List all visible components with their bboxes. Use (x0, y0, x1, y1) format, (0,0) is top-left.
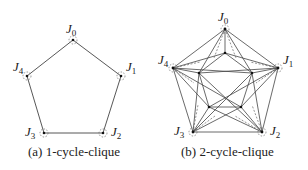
node-label-j1-a: J1 (126, 60, 136, 76)
node-label-j1-b: J1 (283, 53, 293, 69)
caption-b: (b) 2-cycle-clique (181, 145, 274, 158)
node-label-j3-a: J3 (25, 125, 35, 141)
node-label-j4-a: J4 (13, 60, 23, 76)
node-label-j0-b: J0 (218, 10, 228, 26)
node-label-j2-b: J2 (270, 124, 280, 140)
node-label-j0-a: J0 (66, 22, 76, 38)
node-label-j2-a: J2 (111, 125, 121, 141)
diagram-2-cycle-clique (169, 25, 282, 136)
figure: J0 J1 J2 J3 J4 (a) 1-cycle-clique J0 J1 … (0, 0, 308, 170)
node-label-j4-b: J4 (158, 53, 168, 69)
caption-a: (a) 1-cycle-clique (28, 145, 120, 158)
node-label-j3-b: J3 (174, 124, 184, 140)
